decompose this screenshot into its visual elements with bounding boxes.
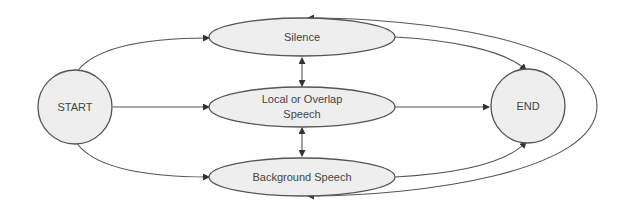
node-local-label-line2: Speech (283, 108, 320, 120)
node-end: END (491, 69, 565, 143)
node-silence-label: Silence (284, 31, 320, 43)
edge-background-end (395, 142, 526, 177)
node-start-label: START (57, 101, 92, 113)
node-background-label: Background Speech (252, 171, 351, 183)
node-start: START (38, 70, 112, 144)
node-end-label: END (516, 100, 539, 112)
node-silence: Silence (209, 18, 395, 56)
state-diagram: START Silence Local or Overlap Speech Ba… (0, 0, 627, 212)
edge-silence-end (395, 37, 526, 70)
edge-start-background (76, 142, 209, 177)
node-local-label-line1: Local or Overlap (262, 93, 343, 105)
edge-start-silence (76, 38, 209, 73)
node-background-speech: Background Speech (209, 158, 395, 196)
node-local-speech: Local or Overlap Speech (209, 87, 395, 127)
